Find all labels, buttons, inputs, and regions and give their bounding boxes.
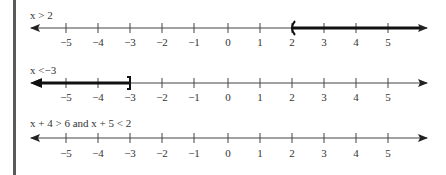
tick-label: 2 [289, 91, 295, 103]
tick-label: 3 [321, 91, 327, 103]
tick-label: 5 [385, 91, 391, 103]
tick-label: −4 [92, 36, 104, 48]
tick-label: −5 [60, 147, 72, 159]
tick-label: 5 [385, 36, 391, 48]
tick-label: −2 [156, 36, 168, 48]
tick-label: 1 [257, 147, 263, 159]
number-line-1 [31, 21, 427, 35]
tick-label: −3 [124, 36, 136, 48]
tick-label: 0 [225, 147, 231, 159]
tick-label: −3 [124, 91, 136, 103]
tick-label: −4 [92, 147, 104, 159]
tick-label: 3 [321, 36, 327, 48]
tick-label: −1 [188, 91, 200, 103]
tick-label: 2 [289, 36, 295, 48]
tick-label: −4 [92, 91, 104, 103]
tick-label: −1 [188, 36, 200, 48]
tick-label: 0 [225, 36, 231, 48]
tick-label: 1 [257, 36, 263, 48]
tick-label: 2 [289, 147, 295, 159]
tick-label: −5 [60, 36, 72, 48]
tick-label: 4 [353, 147, 359, 159]
tick-label: −1 [188, 147, 200, 159]
tick-label: 4 [353, 36, 359, 48]
number-line-3 [31, 133, 427, 143]
tick-label: −2 [156, 91, 168, 103]
tick-label: 0 [225, 91, 231, 103]
tick-label: 3 [321, 147, 327, 159]
tick-label: 4 [353, 91, 359, 103]
tick-label: 1 [257, 91, 263, 103]
tick-label: −3 [124, 147, 136, 159]
tick-label: −5 [60, 91, 72, 103]
number-line-2 [31, 77, 427, 89]
number-line-figure: x > 2 x <−3 x + 4 > 6 and x + 5 < 2 [0, 0, 446, 175]
tick-label: −2 [156, 147, 168, 159]
tick-label: 5 [385, 147, 391, 159]
